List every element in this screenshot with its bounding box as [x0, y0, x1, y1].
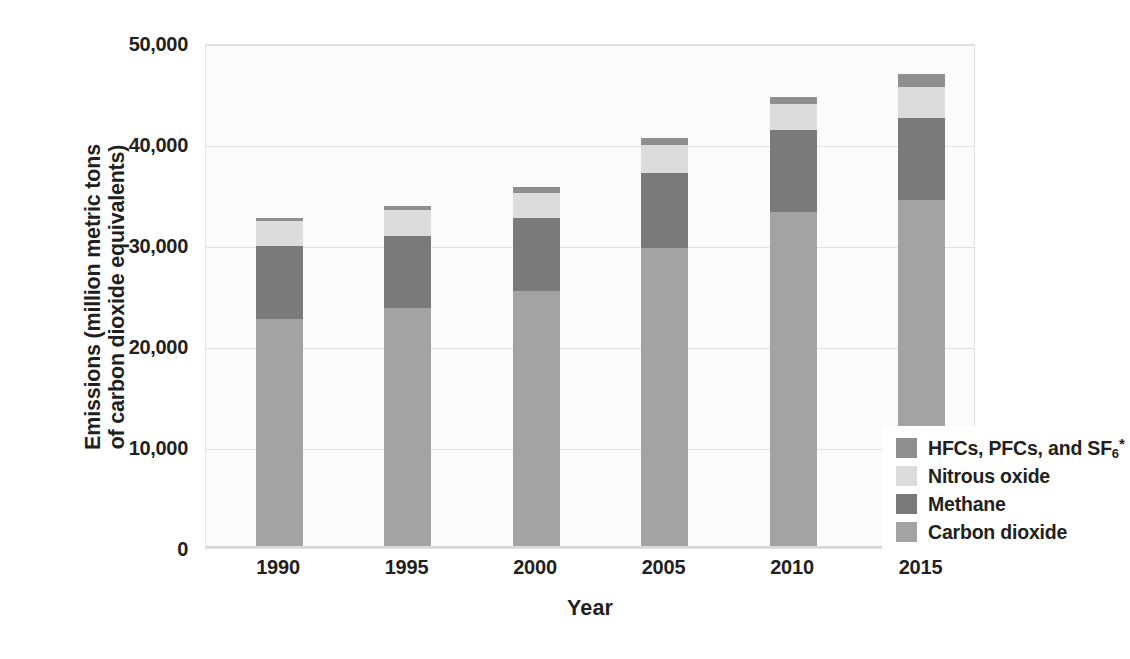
y-axis-tick-label: 40,000 — [18, 134, 188, 157]
x-axis-title: Year — [205, 596, 975, 621]
x-axis-tick-label: 2010 — [737, 556, 847, 579]
legend-swatch — [896, 522, 917, 542]
bar-segment[interactable] — [898, 74, 945, 87]
bar-segment[interactable] — [256, 319, 303, 548]
bar-segment[interactable] — [770, 130, 817, 212]
bar-segment[interactable] — [513, 291, 560, 548]
legend-label: Carbon dioxide — [928, 521, 1067, 544]
legend-label: Nitrous oxide — [928, 465, 1050, 488]
bar-segment[interactable] — [770, 97, 817, 104]
bar-segment[interactable] — [513, 218, 560, 292]
legend-swatch — [896, 466, 917, 486]
bar-segment[interactable] — [770, 212, 817, 548]
bar-segment[interactable] — [770, 104, 817, 130]
x-axis-tick-labels: 199019952000200520102015 — [205, 556, 975, 586]
bar-segment[interactable] — [256, 246, 303, 319]
bar-segment[interactable] — [384, 210, 431, 236]
x-axis-tick-label: 2005 — [609, 556, 719, 579]
legend-label: Methane — [928, 493, 1006, 516]
legend-label: HFCs, PFCs, and SF6* — [928, 437, 1125, 460]
legend-swatch — [896, 438, 917, 458]
x-axis-tick-label: 2000 — [480, 556, 590, 579]
legend-item[interactable]: Methane — [896, 490, 1128, 518]
bar-segment[interactable] — [641, 145, 688, 173]
bar-group[interactable] — [641, 138, 688, 548]
bar-segment[interactable] — [898, 118, 945, 200]
bar-segment[interactable] — [898, 87, 945, 117]
bar-segment[interactable] — [384, 308, 431, 548]
y-axis-tick-label: 20,000 — [18, 336, 188, 359]
bar-segment[interactable] — [641, 138, 688, 145]
bar-group[interactable] — [770, 97, 817, 548]
bar-segment[interactable] — [641, 248, 688, 548]
y-axis-tick-label: 30,000 — [18, 235, 188, 258]
y-axis-tick-label: 50,000 — [18, 33, 188, 56]
plot-area: HFCs, PFCs, and SF6*Nitrous oxideMethane… — [205, 44, 975, 549]
bar-group[interactable] — [384, 206, 431, 548]
x-axis-tick-label: 2015 — [866, 556, 976, 579]
bar-group[interactable] — [513, 187, 560, 548]
y-axis-tick-labels: 010,00020,00030,00040,00050,000 — [0, 44, 188, 549]
y-axis-tick-label: 0 — [18, 538, 188, 561]
x-axis-tick-label: 1995 — [352, 556, 462, 579]
bar-group[interactable] — [256, 218, 303, 548]
x-axis-tick-label: 1990 — [223, 556, 333, 579]
legend-item[interactable]: Nitrous oxide — [896, 462, 1128, 490]
bar-series-container — [206, 45, 974, 548]
bar-segment[interactable] — [513, 193, 560, 218]
bar-segment[interactable] — [256, 221, 303, 246]
x-axis-baseline — [206, 546, 974, 548]
bar-segment[interactable] — [641, 173, 688, 248]
legend-item[interactable]: Carbon dioxide — [896, 518, 1128, 546]
legend-item[interactable]: HFCs, PFCs, and SF6* — [896, 434, 1128, 462]
legend-swatch — [896, 494, 917, 514]
y-axis-tick-label: 10,000 — [18, 437, 188, 460]
legend: HFCs, PFCs, and SF6*Nitrous oxideMethane… — [882, 426, 1130, 556]
bar-segment[interactable] — [384, 236, 431, 308]
